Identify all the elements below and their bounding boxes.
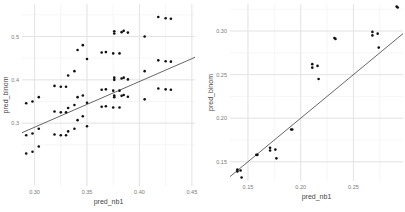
data-point (143, 70, 146, 73)
x-tick-label: 0.40 (134, 189, 145, 195)
data-point (25, 134, 28, 137)
data-point (291, 128, 294, 131)
data-point (311, 63, 314, 66)
left-scatter-plot: 0.300.350.400.450.30.40.5pred_nb1pred_bi… (0, 0, 200, 212)
data-point (37, 96, 40, 99)
x-axis-title: pred_nb1 (302, 193, 332, 201)
data-point (256, 154, 259, 157)
data-point (100, 105, 103, 108)
data-point (37, 145, 40, 148)
data-point (118, 89, 121, 92)
data-point (59, 111, 62, 114)
y-axis-title: pred_binom (2, 76, 10, 113)
data-point (143, 35, 146, 38)
y-tick-label: 0.30 (216, 28, 227, 34)
data-point (105, 88, 108, 91)
data-point (100, 89, 103, 92)
data-point (53, 85, 56, 88)
data-point (240, 176, 243, 179)
data-point (76, 49, 79, 52)
data-point (127, 31, 130, 34)
data-point (112, 89, 115, 92)
data-point (269, 147, 272, 150)
data-point (76, 119, 79, 122)
data-point (127, 78, 130, 81)
data-point (164, 17, 167, 20)
data-point (143, 98, 146, 101)
x-tick-label: 0.30 (29, 189, 40, 195)
data-point (65, 85, 68, 88)
data-point (317, 78, 320, 81)
data-point (311, 66, 314, 69)
data-point (122, 94, 125, 97)
data-point (105, 105, 108, 108)
data-point (53, 133, 56, 136)
y-tick-label: 0.15 (216, 159, 227, 165)
data-point (100, 51, 103, 54)
data-point (164, 60, 167, 63)
data-point (157, 59, 160, 62)
data-point (157, 87, 160, 90)
data-point (82, 94, 85, 97)
data-point (396, 6, 399, 9)
data-point (236, 170, 239, 173)
data-point (65, 111, 68, 114)
data-point (73, 104, 76, 107)
data-point (371, 31, 374, 34)
data-point (118, 106, 121, 109)
data-point (31, 100, 34, 103)
data-point (53, 110, 56, 113)
data-point (82, 115, 85, 118)
data-point (31, 150, 34, 153)
data-point (67, 107, 70, 110)
data-point (316, 65, 319, 68)
data-point (377, 46, 380, 49)
x-axis-title: pred_nb1 (94, 198, 124, 206)
x-tick-label: 0.20 (295, 184, 306, 190)
data-point (82, 44, 85, 47)
data-point (86, 58, 89, 61)
data-point (59, 134, 62, 137)
data-point (275, 157, 278, 160)
x-tick-label: 0.45 (186, 189, 197, 195)
data-point (112, 52, 115, 55)
x-tick-label: 0.25 (348, 184, 359, 190)
data-point (76, 96, 79, 99)
data-point (274, 148, 277, 151)
data-point (118, 52, 121, 55)
data-point (59, 85, 62, 88)
data-point (170, 89, 173, 92)
fit-line (22, 57, 195, 132)
data-point (25, 102, 28, 105)
x-tick-label: 0.15 (243, 184, 254, 190)
y-tick-label: 0.4 (11, 77, 19, 83)
data-point (376, 32, 379, 35)
data-point (113, 79, 116, 82)
data-point (170, 60, 173, 63)
data-point (122, 30, 125, 33)
data-point (127, 95, 130, 98)
data-point (37, 128, 40, 131)
data-point (113, 96, 116, 99)
data-point (122, 76, 125, 79)
x-tick-label: 0.35 (82, 189, 93, 195)
data-point (31, 132, 34, 135)
data-point (73, 70, 76, 73)
y-tick-label: 0.25 (216, 72, 227, 78)
data-point (239, 169, 242, 172)
data-point (170, 17, 173, 20)
data-point (334, 38, 337, 41)
data-point (105, 51, 108, 54)
data-point (86, 125, 89, 128)
data-point (164, 88, 167, 91)
data-point (73, 128, 76, 131)
left-scatter-panel: 0.300.350.400.450.30.40.5pred_nb1pred_bi… (0, 0, 200, 212)
y-axis-title: pred_binom (207, 74, 215, 111)
y-tick-label: 0.20 (216, 115, 227, 121)
data-point (67, 130, 70, 133)
data-point (371, 34, 374, 37)
right-scatter-panel: 0.150.200.250.150.200.250.30pred_nb1pred… (200, 0, 405, 212)
data-point (25, 152, 28, 155)
data-point (67, 74, 70, 77)
data-point (113, 32, 116, 35)
